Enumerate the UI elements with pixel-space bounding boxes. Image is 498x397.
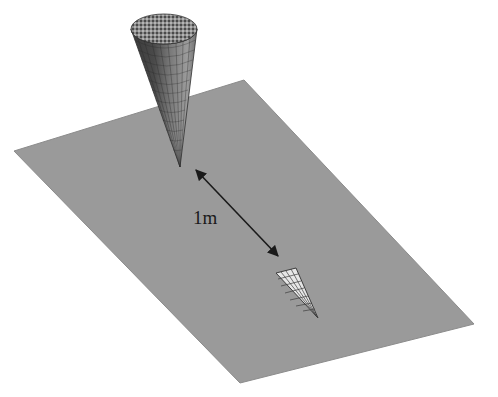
diagram-canvas: 1m xyxy=(0,0,498,397)
diagram-svg xyxy=(0,0,498,397)
ground-plane xyxy=(14,80,474,383)
cone-top-face xyxy=(131,14,197,44)
distance-label: 1m xyxy=(193,207,217,229)
